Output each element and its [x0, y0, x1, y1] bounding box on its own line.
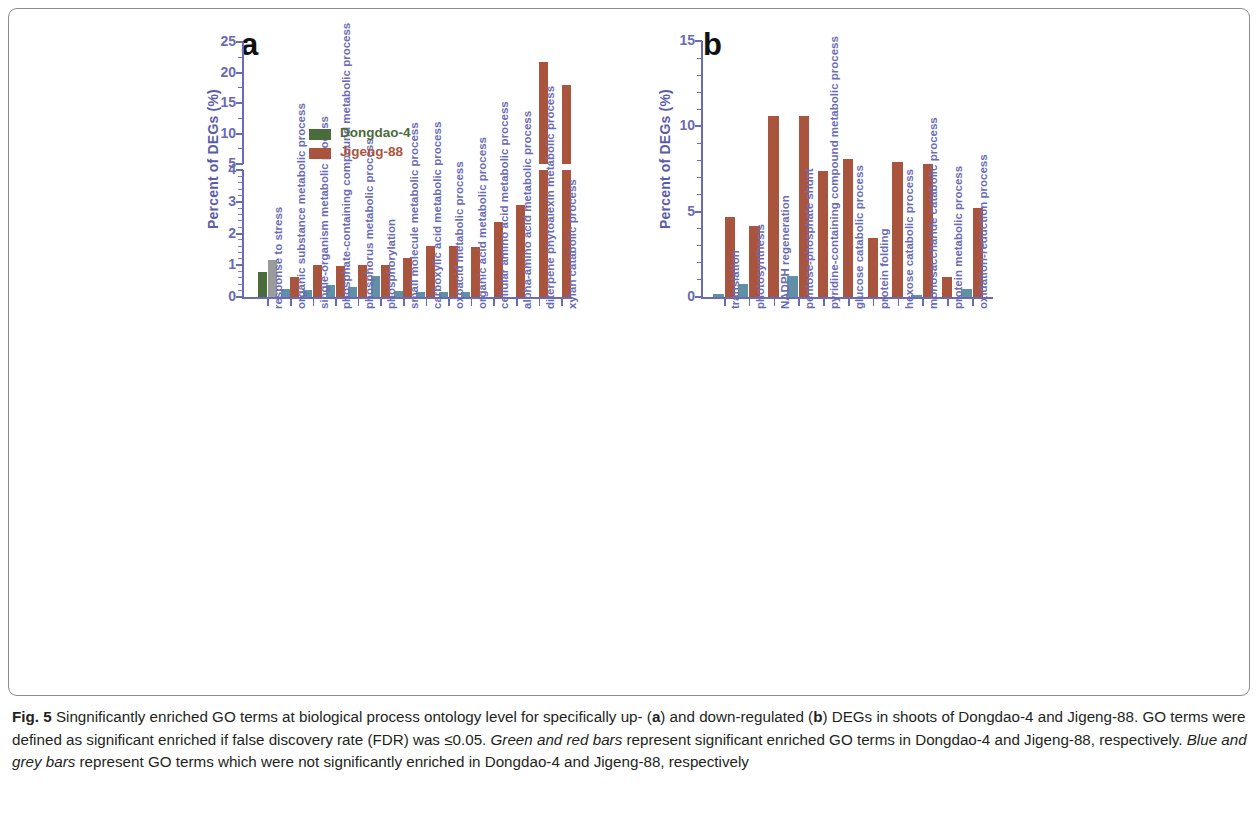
panel-a-y-minor-tick	[238, 148, 242, 149]
panel-b-y-axis	[701, 41, 703, 298]
panel-b-x-axis	[701, 297, 993, 299]
panel-a-y-tick-0	[236, 296, 243, 298]
bar-b-jigeng-5	[843, 159, 854, 297]
panel-a-x-label-6: small molecule metabolic process	[408, 122, 420, 309]
panel-b-x-tick-5	[848, 299, 850, 306]
panel-b-x-tick-4	[823, 299, 825, 306]
bar-b-jigeng-7	[892, 162, 903, 297]
bar-b-jigeng-4	[818, 171, 829, 297]
panel-b-y-minor-tick	[697, 245, 701, 246]
panel-a-x-label-8: oxoacid metabolic process	[453, 161, 465, 309]
panel-b-y-minor-tick	[697, 262, 701, 263]
panel-b-x-tick-6	[873, 299, 875, 306]
chart-panel-b: b Percent of DEGs (%) 051015 translation…	[629, 9, 1249, 689]
panel-a-y-tick-4	[236, 169, 243, 171]
panel-a-x-label-7: carboxylic acid metabolic process	[431, 122, 443, 309]
panel-a-y-minor-tick	[238, 214, 242, 215]
panel-b-x-label-5: glucose catabolic process	[853, 165, 865, 309]
panel-a-x-tick-0	[267, 299, 269, 306]
panel-b-y-minor-tick	[697, 228, 701, 229]
panel-b-x-tick-2	[774, 299, 776, 306]
panel-a-y-tick-20	[236, 72, 243, 74]
panel-a-y-tick-label-3: 3	[204, 193, 236, 209]
panel-b-y-minor-tick	[697, 75, 701, 76]
panel-b-y-tick-0	[695, 296, 702, 298]
panel-b-x-label-7: hexose catabolic process	[903, 169, 915, 309]
panel-a-y-tick-15	[236, 102, 243, 104]
panel-b-x-label-6: protein folding	[878, 229, 890, 309]
panel-a-y-tick-label-25: 25	[204, 33, 236, 49]
panel-a-x-tick-4	[358, 299, 360, 306]
panel-a-y-minor-tick	[238, 195, 242, 196]
bar-a-dongdao-0	[258, 272, 267, 297]
bar-b-jigeng-9	[942, 277, 953, 297]
panel-a-y-minor-tick	[238, 277, 242, 278]
panel-b-y-minor-tick	[697, 92, 701, 93]
panel-a-x-label-9: organic acid metabolic process	[476, 137, 488, 309]
panel-a-x-label-12: diterpene phytoalexin metabolic process	[544, 86, 556, 309]
legend-swatch-jigeng	[309, 148, 331, 159]
panel-b-y-tick-5	[695, 211, 702, 213]
panel-b-y-tick-10	[695, 125, 702, 127]
panel-b-x-label-4: pyridine-containing compound metabolic p…	[828, 36, 840, 309]
panel-b-y-minor-tick	[697, 279, 701, 280]
panel-a-y-minor-tick	[238, 182, 242, 183]
panel-a-y-minor-tick	[238, 284, 242, 285]
panel-b-y-tick-label-0: 0	[663, 288, 695, 304]
bar-b-dongdao-0	[713, 294, 724, 297]
bar-a-jigeng-13-upper	[562, 85, 571, 164]
panel-a-y-minor-tick	[238, 290, 242, 291]
figure-caption: Fig. 5 Singnificantly enriched GO terms …	[12, 706, 1248, 774]
panel-a-y-tick-label-2: 2	[204, 225, 236, 241]
panel-a-y-minor-tick	[238, 220, 242, 221]
panel-b-x-tick-9	[947, 299, 949, 306]
panel-b-x-tick-0	[724, 299, 726, 306]
panel-b-x-label-2: NADPH regeneration	[779, 195, 791, 309]
panel-a-x-tick-1	[290, 299, 292, 306]
panel-b-y-tick-label-10: 10	[663, 117, 695, 133]
panel-b-x-tick-10	[972, 299, 974, 306]
panel-a-x-label-2: single-organism metabolic process	[318, 116, 330, 309]
panel-a-y-tick-1	[236, 264, 243, 266]
panel-a-x-tick-13	[561, 299, 563, 306]
panel-b-y-minor-tick	[697, 109, 701, 110]
panel-a-y-minor-tick	[238, 227, 242, 228]
panel-a-x-label-13: xylan catabolic process	[566, 179, 578, 309]
panel-a-x-label-3: phosphate-containing compound metabolic …	[340, 23, 352, 309]
panel-a-x-tick-9	[471, 299, 473, 306]
panel-a-y-tick-label-0: 0	[204, 288, 236, 304]
panel-a-y-minor-tick	[238, 176, 242, 177]
panel-b-y-minor-tick	[697, 160, 701, 161]
panel-a-x-tick-2	[313, 299, 315, 306]
figure-frame: a Percent of DEGs (%) 01234510152025 res…	[8, 8, 1250, 696]
legend-swatch-dongdao	[309, 129, 331, 140]
panel-a-y-tick-label-1: 1	[204, 256, 236, 272]
panel-b-y-tick-label-5: 5	[663, 203, 695, 219]
panel-a-x-tick-3	[335, 299, 337, 306]
panel-b-y-minor-tick	[697, 58, 701, 59]
panel-a-y-tick-3	[236, 201, 243, 203]
panel-b-letter: b	[703, 27, 722, 63]
panel-a-y-tick-label-5: 5	[204, 155, 236, 171]
panel-a-x-tick-10	[493, 299, 495, 306]
panel-b-x-tick-8	[922, 299, 924, 306]
panel-a-y-tick-5	[236, 163, 243, 165]
panel-a-y-tick-10	[236, 133, 243, 135]
chart-panel-a: a Percent of DEGs (%) 01234510152025 res…	[9, 9, 669, 689]
caption-part-4: represent significant enriched GO terms …	[622, 731, 1186, 748]
caption-green-red: Green and red bars	[491, 731, 623, 748]
caption-part-2: ) and down-regulated (	[660, 708, 813, 725]
panel-a-x-label-1: organic substance metabolic process	[295, 103, 307, 309]
panel-a-x-label-5: phosphorylation	[385, 219, 397, 309]
panel-b-y-tick-15	[695, 40, 702, 42]
panel-a-x-label-10: cellular amino acid metabolic process	[498, 101, 510, 309]
panel-a-y-minor-tick	[238, 271, 242, 272]
panel-b-y-minor-tick	[697, 177, 701, 178]
panel-b-x-tick-1	[749, 299, 751, 306]
panel-a-y-minor-tick	[238, 87, 242, 88]
panel-a-y-tick-2	[236, 233, 243, 235]
panel-a-y-minor-tick	[238, 118, 242, 119]
panel-a-y-minor-tick	[238, 252, 242, 253]
caption-part-5: represent GO terms which were not signif…	[75, 753, 749, 770]
panel-b-y-minor-tick	[697, 143, 701, 144]
